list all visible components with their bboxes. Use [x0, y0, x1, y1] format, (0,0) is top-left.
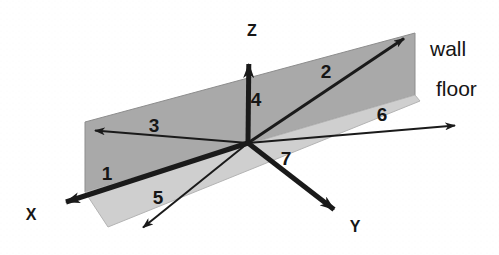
vector-4-label: 4 — [251, 89, 262, 110]
vector-2-label: 2 — [321, 61, 332, 82]
figure-container: Z X Y 1 2 3 4 5 6 7 wall floor — [0, 0, 499, 255]
origin-point — [245, 140, 250, 145]
x-axis-label: X — [26, 206, 37, 223]
z-axis-line — [248, 64, 249, 143]
z-axis-label: Z — [247, 22, 257, 39]
vector-diagram: Z X Y 1 2 3 4 5 6 7 wall floor — [0, 0, 499, 255]
vector-6-label: 6 — [377, 104, 388, 125]
vector-7-label: 7 — [281, 148, 292, 169]
wall-plane-label: wall — [429, 37, 466, 60]
vector-1-label: 1 — [102, 163, 113, 184]
floor-plane-label: floor — [436, 77, 477, 100]
vector-5-label: 5 — [153, 187, 164, 208]
vector-3-label: 3 — [149, 115, 160, 136]
y-axis-label: Y — [350, 218, 361, 235]
